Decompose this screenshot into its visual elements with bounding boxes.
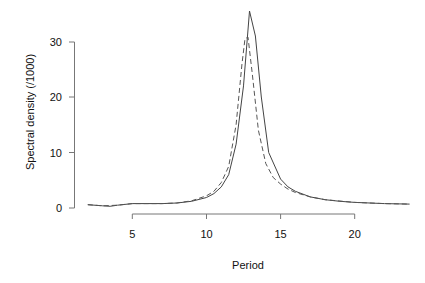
y-tick-label-0: 0 — [56, 202, 62, 214]
y-axis-title: Spectral density (/1000) — [24, 54, 36, 170]
x-axis-title: Period — [232, 259, 264, 271]
solid-series-line — [88, 11, 410, 206]
plot-lines — [88, 11, 410, 206]
x-axis: 5 10 15 20 Period — [129, 214, 361, 271]
x-tick-label-10: 10 — [200, 228, 212, 240]
x-tick-label-20: 20 — [349, 228, 361, 240]
y-tick-label-20: 20 — [50, 91, 62, 103]
y-tick-label-10: 10 — [50, 147, 62, 159]
dashed-series-line — [88, 37, 410, 206]
y-axis: 0 10 20 30 Spectral density (/1000) — [24, 36, 75, 214]
x-tick-label-15: 15 — [274, 228, 286, 240]
y-tick-label-30: 30 — [50, 36, 62, 48]
spectral-density-chart: 0 10 20 30 Spectral density (/1000) 5 10… — [0, 0, 425, 283]
x-tick-label-5: 5 — [129, 228, 135, 240]
